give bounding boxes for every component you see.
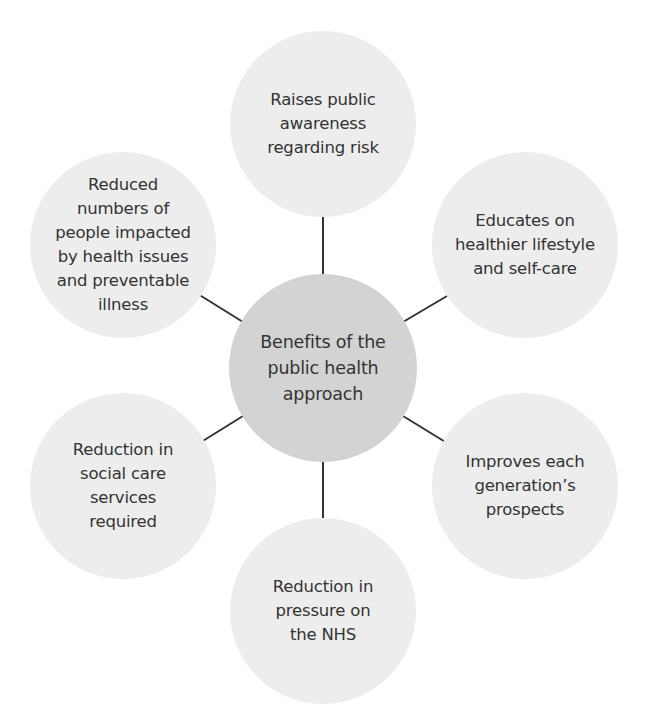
benefits-diagram: Raises public awareness regarding risk E… [0,0,648,720]
benefit-node-lower-left: Reduction in social care services requir… [30,393,216,579]
connector-lower-left [198,416,243,444]
central-topic-label: Benefits of the public health approach [260,329,385,407]
connector-lower-right [403,416,447,443]
central-topic-node: Benefits of the public health approach [229,274,417,462]
benefit-label: Raises public awareness regarding risk [267,88,379,160]
benefit-label: Improves each generation’s prospects [466,450,585,522]
benefit-node-upper-left: Reduced numbers of people impacted by he… [30,152,216,338]
benefit-label: Educates on healthier lifestyle and self… [455,209,595,281]
benefit-node-lower-right: Improves each generation’s prospects [432,393,618,579]
benefit-node-bottom: Reduction in pressure on the NHS [230,518,416,704]
benefit-node-upper-right: Educates on healthier lifestyle and self… [432,152,618,338]
connector-upper-right [403,296,447,322]
connector-upper-left [198,294,243,322]
benefit-label: Reduced numbers of people impacted by he… [55,173,191,317]
benefit-node-top: Raises public awareness regarding risk [230,31,416,217]
benefit-label: Reduction in social care services requir… [73,438,173,534]
benefit-label: Reduction in pressure on the NHS [273,575,373,647]
